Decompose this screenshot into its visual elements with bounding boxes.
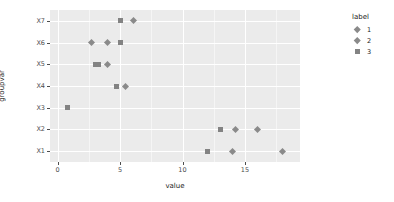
legend-item[interactable]: 3 <box>352 46 392 57</box>
y-tick-mark <box>47 64 50 65</box>
y-tick-label: X5 <box>36 60 45 68</box>
data-point <box>254 126 261 133</box>
data-point <box>279 148 286 155</box>
y-tick-label: X1 <box>36 147 45 155</box>
y-tick-label: X7 <box>36 17 45 25</box>
data-point <box>104 61 111 68</box>
data-point <box>229 148 236 155</box>
plot-panel <box>50 10 300 162</box>
data-point <box>114 84 119 89</box>
x-tick-mark <box>58 162 59 165</box>
y-tick-label: X3 <box>36 104 45 112</box>
x-tick-label: 15 <box>241 166 249 174</box>
data-point <box>118 18 123 23</box>
x-tick-label: 10 <box>178 166 186 174</box>
data-point <box>130 17 137 24</box>
legend-title: label <box>352 13 392 21</box>
legend-item[interactable]: 1 <box>352 24 392 35</box>
y-tick-mark <box>47 108 50 109</box>
data-point <box>96 62 101 67</box>
diamond-marker-icon <box>354 37 360 43</box>
legend-item[interactable]: 2 <box>352 35 392 46</box>
gridline-horizontal <box>50 21 300 22</box>
legend-item-label: 3 <box>367 48 371 56</box>
y-tick-mark <box>47 151 50 152</box>
data-point <box>231 126 238 133</box>
gridline-horizontal <box>50 129 300 130</box>
x-axis: 051015 <box>50 162 300 182</box>
legend-key <box>352 46 363 57</box>
legend: label 123 <box>352 13 392 57</box>
y-tick-label: X4 <box>36 82 45 90</box>
legend-key <box>352 24 363 35</box>
square-marker-icon <box>355 49 360 54</box>
x-axis-label: value <box>165 182 184 190</box>
data-point <box>65 105 70 110</box>
data-point <box>205 149 210 154</box>
gridline-horizontal <box>50 64 300 65</box>
x-tick-label: 0 <box>55 166 59 174</box>
legend-items: 123 <box>352 24 392 57</box>
legend-item-label: 2 <box>367 37 371 45</box>
gridline-horizontal <box>50 108 300 109</box>
data-point <box>118 40 123 45</box>
y-axis-label: groupvar <box>0 70 6 102</box>
x-tick-mark <box>183 162 184 165</box>
y-tick-label: X2 <box>36 125 45 133</box>
data-point <box>218 127 223 132</box>
gridline-horizontal <box>50 151 300 152</box>
chart-root: X7X6X5X4X3X2X1 051015 groupvar value lab… <box>0 0 394 202</box>
x-tick-mark <box>120 162 121 165</box>
y-tick-mark <box>47 86 50 87</box>
data-point <box>121 82 128 89</box>
legend-key <box>352 35 363 46</box>
y-tick-mark <box>47 43 50 44</box>
y-tick-mark <box>47 21 50 22</box>
y-axis: X7X6X5X4X3X2X1 <box>0 10 50 162</box>
x-tick-label: 5 <box>118 166 122 174</box>
diamond-marker-icon <box>354 26 360 32</box>
y-tick-mark <box>47 129 50 130</box>
legend-item-label: 1 <box>367 26 371 34</box>
data-point <box>104 39 111 46</box>
y-tick-label: X6 <box>36 39 45 47</box>
x-tick-mark <box>245 162 246 165</box>
gridline-horizontal <box>50 86 300 87</box>
